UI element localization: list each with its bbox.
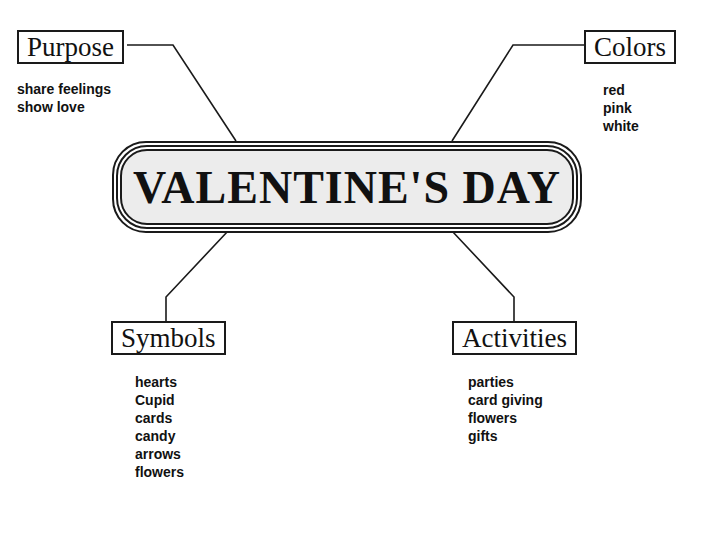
central-title: VALENTINE'S DAY: [133, 161, 561, 214]
symbols-item: Cupid: [135, 391, 184, 409]
colors-item: pink: [603, 99, 639, 117]
node-purpose: Purpose: [17, 30, 124, 64]
activities-items: parties card giving flowers gifts: [468, 373, 543, 445]
central-topic: VALENTINE'S DAY: [112, 141, 582, 233]
activities-item: parties: [468, 373, 543, 391]
symbols-item: flowers: [135, 463, 184, 481]
colors-item: red: [603, 81, 639, 99]
symbols-item: arrows: [135, 445, 184, 463]
symbols-item: candy: [135, 427, 184, 445]
connector-colors: [452, 45, 585, 141]
connector-activities: [452, 231, 514, 322]
symbols-item: hearts: [135, 373, 184, 391]
connector-purpose: [127, 45, 236, 141]
connector-symbols: [166, 231, 228, 322]
colors-items: red pink white: [603, 81, 639, 135]
purpose-item: share feelings: [17, 80, 111, 98]
activities-item: flowers: [468, 409, 543, 427]
purpose-items: share feelings show love: [17, 80, 111, 116]
colors-item: white: [603, 117, 639, 135]
node-activities: Activities: [452, 321, 577, 355]
symbols-items: hearts Cupid cards candy arrows flowers: [135, 373, 184, 481]
node-symbols: Symbols: [111, 321, 226, 355]
activities-item: card giving: [468, 391, 543, 409]
symbols-item: cards: [135, 409, 184, 427]
purpose-item: show love: [17, 98, 111, 116]
activities-item: gifts: [468, 427, 543, 445]
node-colors: Colors: [584, 30, 676, 64]
